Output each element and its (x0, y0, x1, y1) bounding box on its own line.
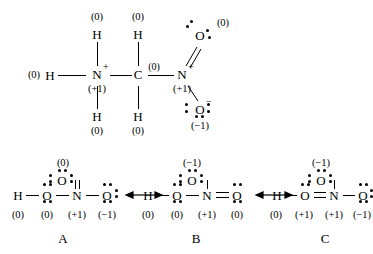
atom-h-top-left: H (85, 28, 109, 41)
structure-label-b: B (185, 232, 207, 245)
atom-b-top-o: O (185, 174, 199, 187)
bond-b-o-n (186, 195, 199, 196)
atom-c-o-left: O (298, 189, 312, 202)
lone-pair-dot (185, 110, 188, 113)
lone-pair-dot (233, 200, 236, 203)
bond-c-h-bottom (138, 86, 139, 109)
lone-pair-dot (239, 183, 242, 186)
superscript-n-left-plus: + (103, 62, 109, 72)
charge-c-top-o: (−1) (307, 158, 335, 169)
lone-pair-dot (186, 25, 189, 28)
bond-a-double-right-ext (79, 180, 80, 184)
atom-h-bottom-mid: H (126, 110, 150, 123)
lone-pair-dot (58, 169, 61, 172)
atom-h-top-mid: H (126, 28, 150, 41)
lone-pair-dot (49, 183, 52, 186)
charge-a-o-left: (0) (35, 210, 59, 221)
bond-b-n-o-double-bottom (216, 197, 229, 198)
lone-pair-dot (323, 169, 326, 172)
lone-pair-dot (207, 110, 210, 113)
lone-pair-dot (233, 183, 236, 186)
lone-pair-dot (64, 169, 67, 172)
lone-pair-dot (185, 103, 188, 106)
lone-pair-dot (317, 169, 320, 172)
atom-c-top-o: O (314, 174, 328, 187)
charge-o-lower-right: (−1) (188, 121, 212, 132)
bond-h-n-vertical (97, 42, 98, 66)
charge-h-bottom-left: (0) (85, 126, 109, 137)
charge-c-n: (+1) (320, 210, 348, 221)
bond-c-o-n-double-top (314, 192, 326, 193)
lone-pair-dot (115, 195, 118, 198)
atom-o-lower-right: O (193, 103, 207, 116)
lone-pair-dot (208, 36, 211, 39)
lone-pair-dot (103, 183, 106, 186)
bond-n-c (110, 75, 132, 76)
lone-pair-dot (329, 174, 332, 177)
charge-a-o-right: (−1) (93, 210, 121, 221)
bond-a-double-left (75, 184, 76, 189)
lone-pair-dot (365, 183, 368, 186)
lone-pair-dot (195, 115, 198, 118)
lone-pair-dot (359, 183, 362, 186)
lone-pair-dot (43, 200, 46, 203)
bond-a-o-n (56, 195, 69, 196)
charge-c-o-right: (−1) (349, 210, 373, 221)
bond-c-h-o (285, 195, 297, 196)
lone-pair-dot (70, 180, 73, 183)
lone-pair-dot (49, 174, 52, 177)
charge-h-top-mid: (0) (126, 12, 150, 23)
bond-h-c-vertical (138, 42, 139, 66)
charge-c-o-left: (+1) (290, 210, 318, 221)
atom-h-bottom-left: H (85, 110, 109, 123)
lone-pair-dot (179, 200, 182, 203)
charge-a-top-o: (0) (52, 158, 74, 169)
lone-pair-dot (190, 20, 193, 23)
lone-pair-dot (173, 183, 176, 186)
lone-pair-dot (365, 200, 368, 203)
atom-b-n: N (200, 189, 214, 202)
atom-a-n: N (70, 189, 84, 202)
charge-b-n: (+1) (193, 210, 221, 221)
bond-b-n-o-double-top (216, 192, 229, 193)
bond-c-o-n-vertical (334, 180, 335, 189)
superscript-n-right-plus: + (188, 62, 194, 72)
lone-pair-dot (70, 174, 73, 177)
lone-pair-dot (201, 115, 204, 118)
lone-pair-dot (188, 169, 191, 172)
bond-c-n-o-right (343, 195, 355, 196)
lone-pair-dot (239, 200, 242, 203)
atom-a-top-o: O (55, 174, 69, 187)
lone-pair-dot (308, 174, 311, 177)
charge-a-n: (+1) (63, 210, 91, 221)
lone-pair-dot (115, 189, 118, 192)
charge-b-h: (0) (136, 210, 160, 221)
atom-c-h: H (271, 189, 283, 202)
bond-b-h-o (156, 195, 169, 196)
atom-a-h: H (12, 189, 24, 202)
lone-pair-dot (194, 169, 197, 172)
structure-label-c: C (314, 232, 336, 245)
lone-pair-dot (307, 183, 310, 186)
lone-pair-dot (109, 200, 112, 203)
bond-b-o-n-vertical (207, 180, 208, 189)
atom-b-h: H (142, 189, 154, 202)
charge-o-upper-right: (0) (212, 18, 234, 29)
charge-b-top-o: (−1) (178, 158, 206, 169)
atom-h-left: H (44, 69, 56, 82)
lone-pair-dot (179, 183, 182, 186)
lewis-structure-figure: (0) H (0) H (0) H N + (+1) C (0) N + (+1… (0, 0, 373, 254)
atom-c-n: N (327, 189, 341, 202)
lone-pair-dot (301, 183, 304, 186)
lone-pair-dot (179, 174, 182, 177)
bond-c-o-n-double-bottom (314, 197, 326, 198)
lone-pair-dot (200, 180, 203, 183)
charge-c-center: (0) (143, 62, 165, 73)
bond-a-double-left-ext (75, 180, 76, 184)
charge-n-right: (+1) (170, 84, 194, 95)
charge-b-o-left: (0) (165, 210, 189, 221)
atom-o-upper-right: O (193, 29, 207, 42)
bond-a-h-o (26, 195, 39, 196)
lone-pair-dot (49, 200, 52, 203)
charge-h-bottom-mid: (0) (126, 126, 150, 137)
